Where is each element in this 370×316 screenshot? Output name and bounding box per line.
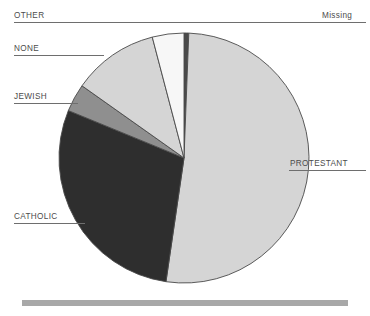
pie-label-protestant: PROTESTANT	[290, 159, 348, 169]
pie-label-missing: Missing	[322, 11, 352, 21]
pie-slices-group	[59, 33, 309, 283]
pie-label-none: NONE	[14, 44, 39, 54]
pie-label-jewish: JEWISH	[14, 92, 47, 102]
pie-slice-protestant[interactable]	[166, 33, 309, 283]
pie-label-other: OTHER	[14, 11, 44, 21]
pie-chart-canvas	[0, 0, 370, 316]
pie-chart-figure: MissingPROTESTANTCATHOLICJEWISHNONEOTHER	[0, 0, 370, 316]
pie-label-catholic: CATHOLIC	[14, 212, 58, 222]
footer-bar	[22, 300, 348, 306]
